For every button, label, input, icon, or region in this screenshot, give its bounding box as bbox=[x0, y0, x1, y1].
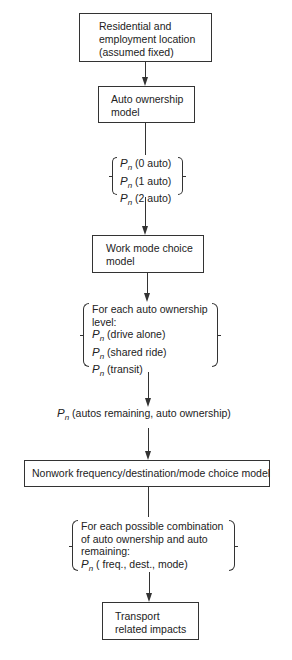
connector-line bbox=[145, 123, 146, 155]
probability-symbol: Pn bbox=[92, 363, 104, 375]
probability-symbol: Pn bbox=[92, 346, 104, 358]
probability-symbol: Pn bbox=[120, 157, 132, 169]
arrow-down-icon bbox=[145, 451, 151, 460]
probability-symbol: Pn bbox=[81, 558, 93, 570]
connector-line bbox=[145, 197, 146, 226]
node-residential-location: Residential and employment location (ass… bbox=[79, 13, 212, 62]
node-label: Residential and bbox=[99, 20, 211, 33]
probability-symbol: Pn bbox=[57, 407, 69, 419]
right-brace bbox=[178, 157, 183, 195]
connector-line bbox=[149, 572, 150, 594]
node-label: Work mode choice bbox=[106, 242, 203, 255]
connector-line bbox=[148, 487, 149, 517]
node-label: employment location bbox=[99, 33, 211, 46]
node-transport-impacts: Transport related impacts bbox=[102, 602, 199, 640]
left-brace bbox=[72, 520, 78, 571]
connector-line bbox=[147, 273, 148, 293]
connector-line bbox=[148, 428, 149, 453]
connector-line bbox=[145, 62, 146, 77]
node-label: Auto ownership bbox=[111, 93, 194, 106]
node-nonwork-choice-model: Nonwork frequency/destination/mode choic… bbox=[24, 460, 270, 487]
node-auto-ownership-model: Auto ownership model bbox=[98, 86, 195, 123]
right-brace bbox=[229, 520, 235, 571]
arrow-down-icon bbox=[144, 293, 150, 302]
node-label: Nonwork frequency/destination/mode choic… bbox=[32, 467, 269, 480]
probability-symbol: Pn bbox=[120, 175, 132, 187]
right-brace bbox=[212, 303, 218, 367]
output-autos-remaining-probability: Pn (autos remaining, auto ownership) bbox=[57, 407, 231, 425]
probability-symbol: Pn bbox=[120, 192, 132, 204]
left-brace bbox=[83, 303, 89, 367]
arrow-down-icon bbox=[145, 398, 151, 407]
node-label: related impacts bbox=[115, 623, 198, 636]
node-label: Transport bbox=[115, 610, 198, 623]
connector-line bbox=[148, 372, 149, 398]
node-label: (assumed fixed) bbox=[99, 46, 211, 59]
arrow-down-icon bbox=[142, 226, 148, 235]
node-work-mode-choice-model: Work mode choice model bbox=[92, 235, 204, 273]
node-label: model bbox=[111, 106, 194, 119]
arrow-down-icon bbox=[142, 77, 148, 86]
node-label: model bbox=[106, 255, 203, 268]
output-nonwork-probabilities: For each possible combination of auto ow… bbox=[81, 520, 223, 575]
output-work-mode-probabilities: For each auto ownership level: Pn (drive… bbox=[92, 303, 208, 381]
probability-symbol: Pn bbox=[92, 328, 104, 340]
arrow-down-icon bbox=[146, 593, 152, 602]
left-brace bbox=[112, 157, 117, 195]
